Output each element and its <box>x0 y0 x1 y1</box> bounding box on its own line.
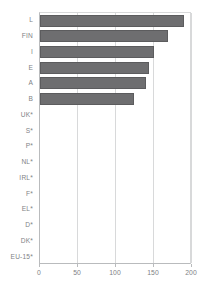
bar <box>40 62 149 74</box>
bar-row <box>40 76 190 92</box>
category-label: B <box>0 91 36 107</box>
category-label: P* <box>0 138 36 154</box>
category-label: L <box>0 12 36 28</box>
bar-row <box>40 154 190 170</box>
category-label: IRL* <box>0 170 36 186</box>
category-label: UK* <box>0 107 36 123</box>
bar <box>40 46 154 58</box>
category-label: F* <box>0 185 36 201</box>
x-axis-tick-label: 150 <box>147 269 158 276</box>
x-axis-tick-label: 100 <box>109 269 120 276</box>
bar <box>40 15 184 27</box>
bar-chart: LFINIEABUK*S*P*NL*IRL*F*EL*D*DK*EU-15* 0… <box>0 0 210 297</box>
x-axis-tick-label: 50 <box>73 269 81 276</box>
bar-row <box>40 201 190 217</box>
x-axis-tick <box>153 264 154 267</box>
category-label: EL* <box>0 201 36 217</box>
category-axis-labels: LFINIEABUK*S*P*NL*IRL*F*EL*D*DK*EU-15* <box>0 12 36 264</box>
category-label: D* <box>0 217 36 233</box>
bar-row <box>40 247 190 263</box>
bar-row <box>40 107 190 123</box>
category-label: E <box>0 59 36 75</box>
x-axis-tick <box>191 264 192 267</box>
bar-row <box>40 232 190 248</box>
bar-row <box>40 44 190 60</box>
bar-series <box>40 13 190 263</box>
bar <box>40 30 168 42</box>
bar <box>40 77 146 89</box>
category-label: I <box>0 44 36 60</box>
plot-area <box>39 12 191 264</box>
category-label: NL* <box>0 154 36 170</box>
bar-row <box>40 60 190 76</box>
bar-row <box>40 138 190 154</box>
bar <box>40 93 134 105</box>
category-label: DK* <box>0 233 36 249</box>
category-label: A <box>0 75 36 91</box>
x-axis-tick-label: 200 <box>185 269 196 276</box>
x-axis-tick <box>115 264 116 267</box>
category-label: EU-15* <box>0 248 36 264</box>
bar-row <box>40 13 190 29</box>
bar-row <box>40 169 190 185</box>
bar-row <box>40 185 190 201</box>
bar-row <box>40 29 190 45</box>
x-axis: 050100150200 <box>39 264 191 286</box>
bar-row <box>40 122 190 138</box>
gridline <box>191 13 192 263</box>
bar-row <box>40 216 190 232</box>
bar-row <box>40 91 190 107</box>
x-axis-tick-label: 0 <box>37 269 41 276</box>
category-label: S* <box>0 122 36 138</box>
category-label: FIN <box>0 28 36 44</box>
x-axis-tick <box>77 264 78 267</box>
x-axis-tick <box>39 264 40 267</box>
